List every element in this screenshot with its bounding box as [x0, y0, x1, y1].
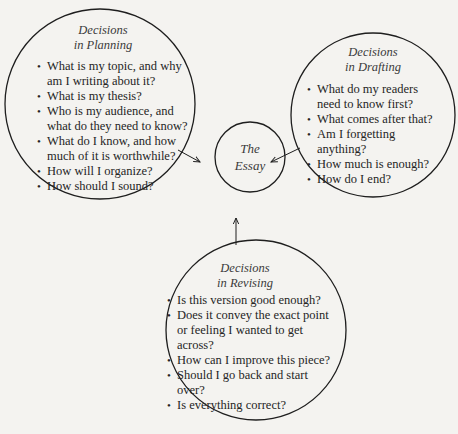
planning-question: Who is my audience, and what do they nee… — [37, 104, 197, 134]
revising-title-line2: in Revising — [200, 276, 290, 291]
drafting-question-list: What do my readers need to know first? W… — [307, 82, 437, 187]
drafting-title-line2: in Drafting — [328, 60, 418, 75]
essay-label-line1: The — [215, 140, 285, 157]
drafting-question: How much is enough? — [307, 157, 437, 172]
planning-title-line1: Decisions — [58, 23, 148, 38]
revising-question: How can I improve this piece? — [167, 353, 335, 368]
drafting-question: What do my readers need to know first? — [307, 82, 437, 112]
revising-question: Is this version good enough? — [167, 293, 335, 308]
drafting-title-line1: Decisions — [328, 45, 418, 60]
planning-question-list: What is my topic, and why am I writing a… — [37, 59, 197, 194]
planning-question: What do I know, and how much of it is wo… — [37, 134, 197, 164]
planning-question: How should I sound? — [37, 179, 197, 194]
essay-label-line2: Essay — [215, 157, 285, 174]
planning-question: What is my topic, and why am I writing a… — [37, 59, 197, 89]
planning-question: How will I organize? — [37, 164, 197, 179]
planning-question: What is my thesis? — [37, 89, 197, 104]
revising-title: Decisions in Revising — [200, 261, 290, 291]
drafting-question: How do I end? — [307, 172, 437, 187]
drafting-question: What comes after that? — [307, 112, 437, 127]
planning-title: Decisions in Planning — [58, 23, 148, 53]
revising-question: Should I go back and start over? — [167, 368, 335, 398]
revising-question-list: Is this version good enough? Does it con… — [167, 293, 335, 413]
drafting-title: Decisions in Drafting — [328, 45, 418, 75]
essay-label: The Essay — [215, 140, 285, 174]
drafting-question: Am I forgetting anything? — [307, 127, 437, 157]
planning-title-line2: in Planning — [58, 38, 148, 53]
revising-question: Does it convey the exact point or feelin… — [167, 308, 335, 353]
revising-question: Is everything correct? — [167, 398, 335, 413]
revising-title-line1: Decisions — [200, 261, 290, 276]
